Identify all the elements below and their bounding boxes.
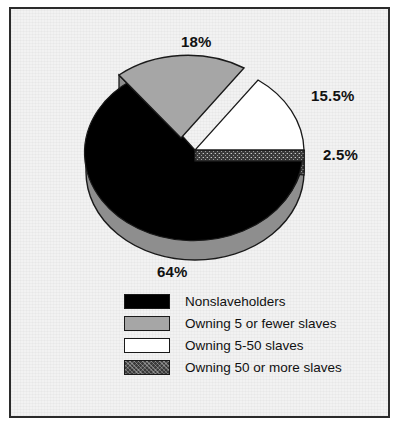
chart-legend: Nonslaveholders Owning 5 or fewer slaves… <box>124 290 342 378</box>
gray-swatch <box>124 316 170 331</box>
label-15-5-percent: 15.5% <box>311 87 355 104</box>
legend-item-owning-5-50[interactable]: Owning 5-50 slaves <box>124 334 342 356</box>
legend-item-label: Owning 50 or more slaves <box>185 360 342 375</box>
dark-textured-swatch <box>124 360 170 375</box>
chart-plate: 18% 15.5% 2.5% 64% Nonslaveholders Ownin… <box>9 7 390 418</box>
white-swatch <box>124 338 170 353</box>
pie-top-faces <box>84 55 304 240</box>
label-64-percent: 64% <box>157 263 188 280</box>
slice-owning-50-or-more[interactable] <box>195 150 304 161</box>
legend-item-label: Nonslaveholders <box>185 294 286 309</box>
legend-item-label: Owning 5-50 slaves <box>185 338 304 353</box>
label-2-5-percent: 2.5% <box>323 146 358 163</box>
legend-item-label: Owning 5 or fewer slaves <box>185 316 337 331</box>
label-18-percent: 18% <box>181 33 212 50</box>
legend-item-owning-50-or-more[interactable]: Owning 50 or more slaves <box>124 356 342 378</box>
legend-item-nonslaveholders[interactable]: Nonslaveholders <box>124 290 342 312</box>
legend-item-owning-5-or-fewer[interactable]: Owning 5 or fewer slaves <box>124 312 342 334</box>
black-swatch <box>124 294 170 309</box>
chart-figure: 18% 15.5% 2.5% 64% Nonslaveholders Ownin… <box>0 0 401 426</box>
